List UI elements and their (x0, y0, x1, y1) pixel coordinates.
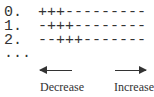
decrease-label: Decrease (40, 80, 84, 95)
increase-label: Increase (114, 80, 154, 95)
arrow-right-icon (115, 70, 146, 71)
row-pattern: --+++------- (38, 32, 146, 49)
ellipsis: ... (4, 47, 31, 61)
arrow-left-icon (40, 70, 72, 71)
